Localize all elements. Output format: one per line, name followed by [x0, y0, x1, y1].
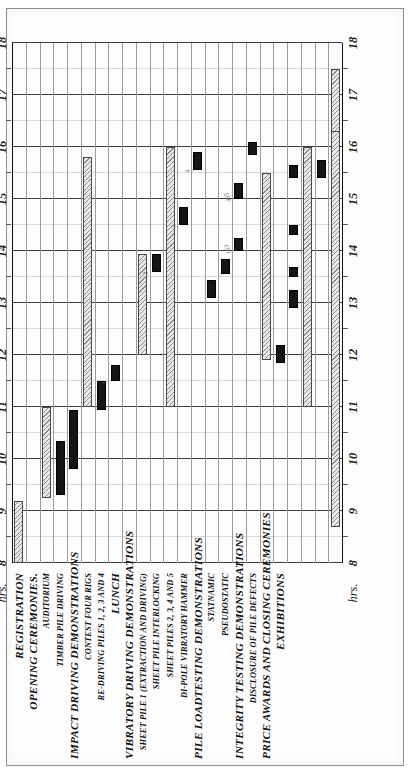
row-gridline	[150, 43, 151, 563]
gantt-bar[interactable]	[83, 157, 92, 407]
row-gridline	[122, 43, 123, 563]
row-gridline	[67, 43, 68, 563]
hour-tick-label: 18	[0, 37, 10, 50]
row-label: LUNCH	[109, 569, 121, 759]
row-gridline	[136, 43, 137, 563]
row-gridline	[328, 43, 329, 563]
row-label: SHEET PILES 2, 3, 4 AND 5	[166, 569, 175, 759]
row-label: AUDITORIUM	[42, 569, 51, 759]
hour-tick-label: 12	[0, 349, 10, 362]
row-gridline	[40, 43, 41, 563]
half-hour-tick	[6, 224, 11, 225]
half-hour-tick	[6, 68, 11, 69]
half-hour-tick	[343, 120, 348, 121]
half-hour-tick	[343, 224, 348, 225]
gantt-bar[interactable]	[42, 407, 51, 498]
gantt-bar[interactable]	[221, 259, 230, 275]
gantt-chart: 1234163465 REGISTRATIONOPENING CEREMONIE…	[12, 15, 398, 759]
row-label: EXHIBITIONS	[274, 569, 286, 759]
half-hour-tick	[6, 380, 11, 381]
gantt-bar[interactable]	[207, 280, 216, 298]
hour-tick-label: 8	[0, 560, 10, 566]
hour-tick-label: 9	[346, 508, 361, 514]
gantt-bar[interactable]	[289, 290, 298, 308]
gantt-bar[interactable]	[152, 254, 161, 272]
axis-unit-label: hrs.	[0, 583, 10, 602]
row-gridline	[177, 43, 178, 563]
gantt-bar[interactable]	[234, 238, 243, 251]
half-hour-tick	[343, 172, 348, 173]
gantt-bar[interactable]	[262, 173, 271, 360]
row-gridline	[205, 43, 206, 563]
gantt-bar[interactable]	[234, 183, 243, 199]
hour-tick-label: 13	[346, 297, 361, 310]
row-label: DI-POLE VIBRATORY HAMMER	[179, 569, 188, 759]
gantt-bar[interactable]	[14, 501, 23, 563]
gantt-bar[interactable]	[331, 131, 340, 526]
gantt-bar[interactable]	[248, 142, 257, 155]
row-gridline	[232, 43, 233, 563]
row-gridline	[108, 43, 109, 563]
row-label: STATNAMIC	[207, 569, 216, 759]
hour-tick-label: 15	[0, 193, 10, 206]
row-label: OPENING CEREMONIES.	[27, 569, 39, 759]
hour-tick-label: 17	[0, 89, 10, 102]
half-hour-tick	[6, 172, 11, 173]
hour-tick-label: 14	[0, 245, 10, 258]
row-label: PSEUDOSTATIC	[221, 569, 230, 759]
half-hour-tick	[6, 276, 11, 277]
gantt-bar[interactable]	[317, 160, 326, 178]
half-hour-tick	[343, 276, 348, 277]
row-label: TIMBER PILE DRIVING	[56, 569, 65, 759]
row-label: INTEGRITY TESTING DEMONSTRATIONS	[233, 569, 245, 759]
gantt-bar[interactable]	[289, 267, 298, 277]
hour-tick-label: 16	[346, 141, 361, 154]
gantt-bar[interactable]	[69, 410, 78, 470]
row-label: VIBRATORY DRIVING DEMONSTRATIONS	[123, 569, 135, 759]
half-hour-tick	[6, 120, 11, 121]
gantt-bar[interactable]	[56, 441, 65, 496]
row-label: SHEET PILE 1 (EXTRACTION AND DRIVING)	[138, 569, 147, 759]
gantt-bar[interactable]	[303, 147, 312, 407]
half-hour-tick	[343, 432, 348, 433]
row-gridline	[260, 43, 261, 563]
hour-tick-label: 17	[346, 89, 361, 102]
row-label: PILE LOADTESTING DEMONSTRATIONS	[192, 569, 204, 759]
hour-tick-label: 18	[346, 37, 361, 50]
half-hour-tick	[343, 68, 348, 69]
hour-tick-label: 9	[0, 508, 10, 514]
gantt-bar[interactable]	[97, 381, 106, 410]
axis-unit-label: hrs.	[346, 583, 361, 602]
row-gridline	[246, 43, 247, 563]
scan-frame: 1234163465 REGISTRATIONOPENING CEREMONIE…	[6, 8, 404, 766]
half-hour-tick	[6, 432, 11, 433]
row-gridline	[95, 43, 96, 563]
gantt-bar[interactable]	[138, 254, 147, 355]
hour-tick-label: 13	[0, 297, 10, 310]
half-hour-tick	[6, 328, 11, 329]
gantt-bar[interactable]	[289, 165, 298, 178]
gantt-bar[interactable]	[193, 152, 202, 170]
hour-tick-label: 8	[346, 560, 361, 566]
row-gridline	[163, 43, 164, 563]
gantt-bar[interactable]	[276, 345, 285, 363]
hour-tick-label: 10	[0, 453, 10, 466]
row-label: REGISTRATION	[13, 569, 25, 759]
row-label: IMPACT DRIVING DEMONSTRATIONS	[68, 569, 80, 759]
row-gridline	[218, 43, 219, 563]
gantt-bar[interactable]	[111, 365, 120, 381]
gantt-bar[interactable]	[179, 207, 188, 225]
gantt-bar[interactable]	[289, 225, 298, 235]
hour-tick-label: 16	[0, 141, 10, 154]
hour-tick-label: 12	[346, 349, 361, 362]
half-hour-tick	[6, 484, 11, 485]
half-hour-tick	[6, 536, 11, 537]
half-hour-tick	[343, 380, 348, 381]
hour-tick-label: 11	[346, 401, 361, 413]
half-hour-tick	[343, 484, 348, 485]
half-hour-tick	[343, 328, 348, 329]
gantt-bar[interactable]	[166, 147, 175, 407]
row-gridline	[53, 43, 54, 563]
row-gridline	[287, 43, 288, 563]
axis-rule-bottom	[342, 43, 343, 563]
